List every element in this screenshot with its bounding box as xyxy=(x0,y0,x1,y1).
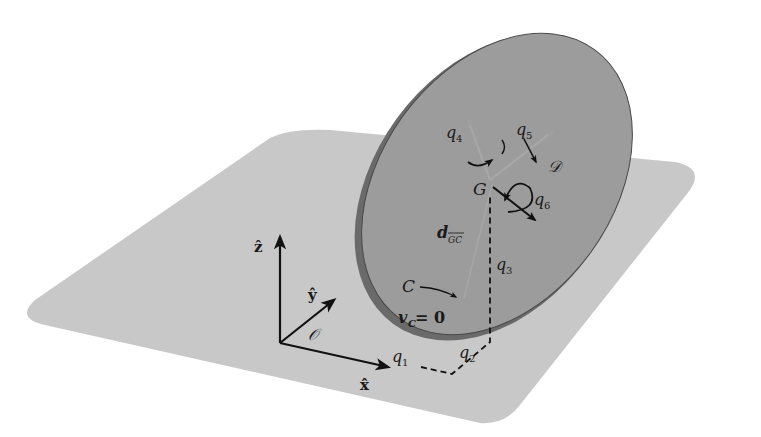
svg-text:q: q xyxy=(534,190,544,209)
svg-text:5: 5 xyxy=(526,130,532,141)
svg-text:q: q xyxy=(392,347,402,366)
y-hat-label: ŷ xyxy=(307,286,318,304)
x-hat-label: x̂ xyxy=(360,376,370,394)
svg-text:v: v xyxy=(398,308,408,327)
svg-text:GC: GC xyxy=(448,235,462,245)
rolling-disk-diagram: ẑ ŷ x̂ 𝒪 G C 𝒟 q 1 q 2 q 3 q 4 q 5 q 6 d… xyxy=(0,0,761,437)
svg-text:q: q xyxy=(496,255,506,274)
z-hat-label: ẑ xyxy=(254,238,263,256)
svg-text:d: d xyxy=(437,223,448,242)
svg-text:q: q xyxy=(446,123,456,142)
svg-text:6: 6 xyxy=(544,200,550,211)
point-g-label: G xyxy=(473,179,487,199)
svg-text:1: 1 xyxy=(402,357,408,368)
vc-zero-label: v C = 0 xyxy=(398,308,445,329)
svg-text:2: 2 xyxy=(469,353,475,364)
svg-text:q: q xyxy=(459,343,469,362)
svg-text:q: q xyxy=(516,120,526,139)
svg-text:= 0: = 0 xyxy=(415,308,445,327)
svg-text:3: 3 xyxy=(506,265,512,276)
svg-text:4: 4 xyxy=(456,133,462,144)
point-c-label: C xyxy=(402,276,415,296)
